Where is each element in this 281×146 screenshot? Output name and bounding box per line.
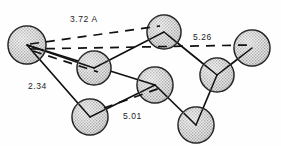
distance-2-34-label: 2.34 <box>28 81 47 91</box>
distance-3-72-label: 3.72 A <box>70 14 98 24</box>
atomic-structure-figure: 3.72 A5.262.345.01 <box>0 0 281 146</box>
distance-5-26-dashed-line <box>30 45 250 49</box>
distance-3-72-dashed-line <box>30 26 160 44</box>
measurement-labels-group: 3.72 A5.262.345.01 <box>28 14 212 121</box>
structure-canvas: 3.72 A5.262.345.01 <box>0 0 281 146</box>
distance-5-01-label: 5.01 <box>123 111 142 121</box>
distance-5-26-label: 5.26 <box>193 32 212 42</box>
atoms-group <box>8 15 270 143</box>
